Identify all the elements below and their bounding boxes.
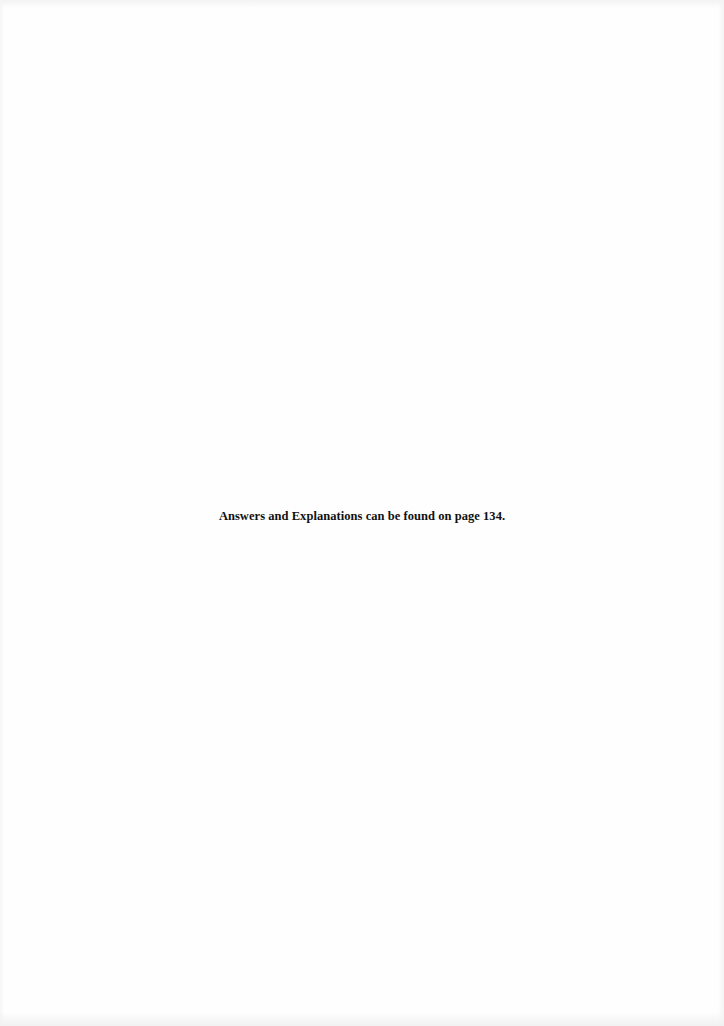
answers-reference-note: Answers and Explanations can be found on… bbox=[0, 508, 724, 524]
document-page: Answers and Explanations can be found on… bbox=[0, 0, 724, 1026]
scan-edge-bottom bbox=[0, 1012, 724, 1026]
scan-edge-top bbox=[0, 0, 724, 8]
